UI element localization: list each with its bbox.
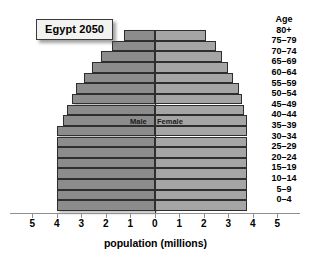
male-bar [57,168,155,179]
age-group-label: 50–54 [258,88,310,99]
age-label-column: Age 80+75–7970–7465–6960–6455–5950–5445–… [258,14,310,205]
male-bar [57,190,155,201]
x-axis-tick-label: 4 [243,218,263,230]
age-group-label: 5–9 [258,184,310,195]
age-group-label: 35–39 [258,120,310,131]
x-axis-tick-label: 1 [120,218,140,230]
male-bar [67,105,155,116]
female-bar [155,158,247,169]
x-axis-tick-label: 5 [22,218,42,230]
female-bar [155,30,206,41]
age-group-label: 20–24 [258,152,310,163]
age-group-label: 55–59 [258,78,310,89]
female-bar [155,179,247,190]
female-bar [155,94,242,105]
x-axis-tick-label: 3 [218,218,238,230]
age-group-label: 70–74 [258,46,310,57]
male-bar [84,73,155,84]
page-title: Egypt 2050 [45,23,104,35]
female-bar [155,62,229,73]
age-group-label: 30–34 [258,131,310,142]
age-column-header: Age [258,14,310,25]
x-axis-tick-label: 1 [169,218,189,230]
age-group-label: 25–29 [258,141,310,152]
female-bar [155,51,222,62]
x-axis-tick [228,213,229,218]
male-bar [57,126,155,137]
female-bar [155,105,244,116]
x-axis-tick [253,213,254,218]
x-axis-tick-label: 2 [194,218,214,230]
male-bar [57,158,155,169]
male-bar [57,179,155,190]
x-axis-tick-label: 2 [96,218,116,230]
x-axis-tick [32,213,33,218]
female-legend-label: Female [157,117,183,126]
x-axis-tick-label: 5 [267,218,287,230]
female-bar [155,83,240,94]
chart-title-box: Egypt 2050 [36,19,113,40]
age-group-label: 65–69 [258,56,310,67]
age-group-label: 75–79 [258,35,310,46]
x-axis-tick [179,213,180,218]
female-bar [155,126,247,137]
female-bar [155,200,247,211]
age-group-label: 40–44 [258,109,310,120]
age-group-label: 80+ [258,25,310,36]
x-axis-title: population (millions) [0,237,311,249]
female-bar [155,137,247,148]
male-bar [72,94,155,105]
x-axis-tick-label: 3 [71,218,91,230]
female-bar [155,73,233,84]
age-group-label: 10–14 [258,173,310,184]
male-bar [57,200,155,211]
x-axis-tick [81,213,82,218]
male-bar [57,137,155,148]
x-axis-tick [106,213,107,218]
x-axis-tick [204,213,205,218]
x-axis-tick [155,213,156,218]
female-bar [155,41,216,52]
male-bar [112,41,155,52]
male-bar [76,83,154,94]
male-bar [101,51,155,62]
center-axis-line [155,30,156,213]
female-bar [155,168,247,179]
x-axis-tick [130,213,131,218]
male-bar [124,30,155,41]
x-axis-tick-label: 0 [145,218,165,230]
age-group-label: 15–19 [258,162,310,173]
age-group-label: 0–4 [258,194,310,205]
x-axis-tick [277,213,278,218]
age-group-label: 45–49 [258,99,310,110]
x-axis-tick-label: 4 [47,218,67,230]
female-bar [155,190,247,201]
x-axis-tick [57,213,58,218]
male-legend-label: Male [130,117,147,126]
population-pyramid-chart: Egypt 2050 Male Female 54321012345 popul… [0,0,311,258]
age-group-label: 60–64 [258,67,310,78]
female-bar [155,147,247,158]
male-bar [92,62,154,73]
male-bar [57,147,155,158]
